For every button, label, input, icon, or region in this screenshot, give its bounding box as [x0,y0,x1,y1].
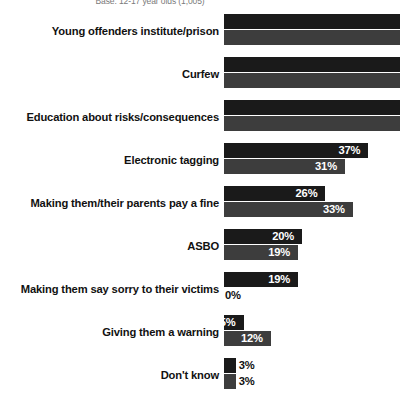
bar-chart: Base: 12-17 year olds (1,005) Young offe… [0,0,400,395]
bar-series-1: 19% [224,272,320,287]
category-label: Making them say sorry to their victims [0,283,224,295]
bar-value-label: 37% [339,145,365,156]
bar-series-2: 12% [224,331,293,346]
bar-group: 26%33% [224,182,400,225]
bar-group [224,96,400,139]
bar-value-label: 26% [296,188,322,199]
bar-group: 20%19% [224,225,400,268]
bar-group: 3%3% [224,354,400,395]
bar [224,14,400,29]
bar-value-label: 3% [239,360,255,371]
chart-row: Giving them a warning5%12% [0,311,400,354]
bar [224,100,400,115]
bar-group [224,10,400,53]
chart-row: Making them/their parents pay a fine26%3… [0,182,400,225]
category-label: Making them/their parents pay a fine [0,197,224,209]
chart-row: Young offenders institute/prison [0,10,400,53]
bar [224,30,400,45]
bar-value-label: 12% [241,333,267,344]
chart-row: Making them say sorry to their victims19… [0,268,400,311]
chart-row: Curfew [0,53,400,96]
bar-group: 37%31% [224,139,400,182]
bar-series-1: 37% [224,143,390,158]
bar-series-2: 33% [224,202,374,217]
bar-series-2: 19% [224,245,320,260]
chart-row: Electronic tagging37%31% [0,139,400,182]
bar-series-1 [224,57,400,72]
bar-series-2 [224,30,400,45]
bar-series-1: 20% [224,229,324,244]
category-label: Giving them a warning [0,326,224,338]
bar [224,358,236,373]
bar-series-2 [224,73,400,88]
bar [224,73,400,88]
bar-value-label: 5% [220,317,240,328]
bar [224,57,400,72]
category-label: Young offenders institute/prison [0,25,224,37]
bar-value-label: 3% [239,376,255,387]
bar-series-1: 3% [224,358,254,373]
chart-subtitle: Base: 12-17 year olds (1,005) [0,0,300,6]
bar-series-1 [224,100,400,115]
category-label: ASBO [0,240,224,252]
bar-series-1: 26% [224,186,347,201]
chart-row: Don't know3%3% [0,354,400,395]
bar-value-label: 19% [268,274,294,285]
bar [224,116,400,131]
bar-series-2: 3% [224,374,254,389]
chart-rows: Young offenders institute/prisonCurfewEd… [0,10,400,395]
bar-value-label: 19% [268,247,294,258]
bar-group: 19%0% [224,268,400,311]
bar-value-label: 0% [225,290,241,301]
bar-group: 5%12% [224,311,400,354]
category-label: Curfew [0,68,224,80]
bar-series-2 [224,116,400,131]
chart-row: ASBO20%19% [0,225,400,268]
category-label: Education about risks/consequences [0,111,224,123]
bar-value-label: 31% [315,161,341,172]
bar-series-2: 31% [224,159,367,174]
category-label: Electronic tagging [0,154,224,166]
chart-row: Education about risks/consequences [0,96,400,139]
bar-value-label: 20% [272,231,298,242]
bar-series-2: 0% [224,288,241,303]
bar-series-1 [224,14,400,29]
category-label: Don't know [0,369,224,381]
bar-series-1: 5% [224,315,259,330]
bar [224,374,236,389]
bar-value-label: 33% [323,204,349,215]
bar-group [224,53,400,96]
